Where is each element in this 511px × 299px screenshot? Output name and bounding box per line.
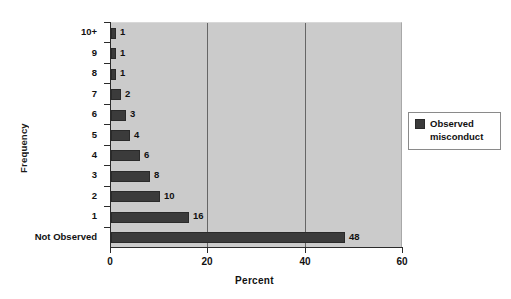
bar: [111, 150, 140, 161]
bar: [111, 130, 130, 141]
bar-value-label: 16: [193, 210, 204, 222]
y-axis-tick: [104, 22, 110, 23]
x-tick-label: 60: [382, 256, 422, 267]
gridline-20: [207, 23, 208, 247]
bar-value-label: 8: [154, 169, 159, 181]
y-tick-label: 9: [92, 47, 97, 59]
bar-value-label: 6: [144, 149, 149, 161]
legend-label-line-2: misconduct: [430, 131, 483, 142]
plot-area: [110, 22, 402, 247]
x-axis-line: [110, 247, 403, 248]
x-axis-title: Percent: [0, 275, 511, 286]
y-axis-title: Frequency: [14, 88, 32, 208]
x-axis-tick-60: [402, 248, 403, 253]
bar-value-label: 4: [134, 129, 139, 141]
y-axis-tick: [104, 165, 110, 166]
y-axis-tick: [104, 42, 110, 43]
bar-value-label: 48: [349, 231, 360, 243]
x-tick-label: 40: [285, 256, 325, 267]
bar-value-label: 10: [164, 190, 175, 202]
y-tick-label: 5: [92, 129, 97, 141]
x-axis-tick-0: [110, 248, 111, 253]
x-axis-title-text: Percent: [235, 275, 274, 286]
x-axis-tick-40: [305, 248, 306, 253]
legend-swatch-observed-misconduct: [415, 119, 425, 129]
bar-value-label: 1: [120, 47, 125, 59]
y-tick-label: 8: [92, 67, 97, 79]
bar-value-label: 1: [120, 67, 125, 79]
y-tick-label: Not Observed: [35, 231, 97, 243]
y-axis-tick: [104, 83, 110, 84]
y-axis-tick: [104, 63, 110, 64]
bar-value-label: 1: [120, 26, 125, 38]
bar: [111, 171, 150, 182]
y-tick-label: 10+: [81, 26, 97, 38]
y-axis-tick: [104, 145, 110, 146]
bar-value-label: 3: [130, 108, 135, 120]
bar: [111, 48, 116, 59]
x-tick-label: 0: [90, 256, 130, 267]
y-tick-label: 7: [92, 88, 97, 100]
gridline-40: [305, 23, 306, 247]
bar: [111, 69, 116, 80]
bar: [111, 212, 189, 223]
legend-label-observed-misconduct: Observed misconduct: [430, 118, 483, 143]
legend-label-line-1: Observed: [430, 118, 474, 129]
bar-chart: Frequency 10+987654321Not Observed 11123…: [0, 0, 511, 299]
y-tick-label: 1: [92, 210, 97, 222]
y-axis-tick: [104, 206, 110, 207]
x-axis-tick-20: [207, 248, 208, 253]
bar-value-label: 2: [125, 88, 130, 100]
y-axis-tick: [104, 186, 110, 187]
y-axis-line: [110, 22, 111, 248]
y-tick-label: 4: [92, 149, 97, 161]
y-tick-label: 6: [92, 108, 97, 120]
y-tick-label: 2: [92, 190, 97, 202]
y-axis-tick: [104, 104, 110, 105]
bar: [111, 89, 121, 100]
legend: Observed misconduct: [408, 112, 501, 150]
y-tick-label: 3: [92, 169, 97, 181]
bar: [111, 232, 345, 243]
y-axis-tick: [104, 124, 110, 125]
y-axis-tick: [104, 227, 110, 228]
bar: [111, 110, 126, 121]
x-tick-label: 20: [187, 256, 227, 267]
bar: [111, 191, 160, 202]
bar: [111, 28, 116, 39]
